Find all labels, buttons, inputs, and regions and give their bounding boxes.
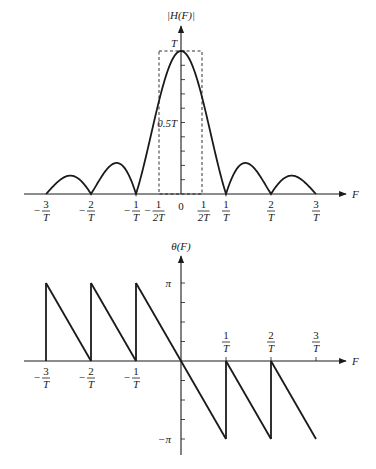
top-x-tick-label-numerator: 3 bbox=[313, 198, 319, 210]
bottom-x-tick-label: 1T bbox=[222, 329, 230, 354]
top-x-tick-label: 2T− bbox=[79, 198, 95, 223]
top-x-tick-label-denominator: T bbox=[313, 211, 320, 223]
top-x-tick-label-numerator: 2 bbox=[88, 198, 94, 210]
top-x-tick-label-denominator: 2T bbox=[153, 211, 166, 223]
top-x-tick-label-numerator: 1 bbox=[133, 198, 139, 210]
bottom-x-tick-label-numerator: 1 bbox=[133, 365, 139, 377]
magnitude-plot: |H(F)| F T0.5T 3T−2T−1T−12T−012T1T2T3T bbox=[24, 9, 359, 223]
top-x-tick-label: 12T bbox=[198, 198, 211, 223]
phase-plot: θ(F) F π−π 3T−2T−1T−1T2T3T bbox=[24, 240, 359, 455]
bottom-x-tick-label-minus: − bbox=[79, 371, 85, 383]
phase-segment bbox=[271, 361, 316, 439]
phase-segment bbox=[91, 283, 136, 361]
top-x-tick-label-minus: − bbox=[124, 204, 130, 216]
top-x-tick-label-denominator: T bbox=[88, 211, 95, 223]
phase-segment bbox=[226, 361, 271, 439]
top-x-tick-label-text: 0 bbox=[178, 200, 184, 212]
bottom-x-tick-label-minus: − bbox=[124, 371, 130, 383]
bottom-x-tick-label-denominator: T bbox=[88, 378, 95, 390]
top-x-tick-label-minus: − bbox=[144, 204, 150, 216]
top-x-tick-label-numerator: 3 bbox=[43, 198, 49, 210]
bottom-x-axis-label: F bbox=[351, 355, 359, 367]
figure: |H(F)| F T0.5T 3T−2T−1T−12T−012T1T2T3T θ… bbox=[0, 0, 376, 469]
top-x-tick-label-minus: − bbox=[34, 204, 40, 216]
top-x-tick-label-denominator: T bbox=[223, 211, 230, 223]
bottom-y-tick-label: π bbox=[165, 277, 171, 289]
top-x-tick-label: 0 bbox=[178, 200, 184, 212]
top-x-tick-label-numerator: 1 bbox=[201, 198, 207, 210]
top-x-axis-label: F bbox=[351, 188, 359, 200]
top-x-tick-label-minus: − bbox=[79, 204, 85, 216]
bottom-x-tick-label-denominator: T bbox=[268, 342, 275, 354]
top-x-tick-label: 3T− bbox=[34, 198, 50, 223]
bottom-y-tick-label: −π bbox=[158, 433, 171, 445]
bottom-x-tick-label: 3T bbox=[312, 329, 320, 354]
bottom-x-tick-label-numerator: 3 bbox=[313, 329, 319, 341]
bottom-x-tick-label: 3T− bbox=[34, 365, 50, 390]
bottom-x-tick-label-denominator: T bbox=[133, 378, 140, 390]
top-x-tick-label-denominator: T bbox=[43, 211, 50, 223]
top-x-tick-label-numerator: 1 bbox=[156, 198, 162, 210]
top-x-tick-label: 3T bbox=[312, 198, 320, 223]
top-x-tick-label-numerator: 2 bbox=[268, 198, 274, 210]
phase-segment bbox=[46, 283, 91, 361]
top-y-axis-label: |H(F)| bbox=[167, 9, 195, 22]
top-y-tick-label: T bbox=[171, 37, 178, 49]
bottom-x-tick-label-numerator: 2 bbox=[268, 329, 274, 341]
top-x-tick-label-denominator: T bbox=[268, 211, 275, 223]
top-x-tick-label: 1T− bbox=[124, 198, 140, 223]
bottom-x-tick-label: 1T− bbox=[124, 365, 140, 390]
top-y-tick-label: 0.5T bbox=[157, 117, 178, 129]
bottom-x-tick-label-denominator: T bbox=[313, 342, 320, 354]
bottom-x-tick-label: 2T− bbox=[79, 365, 95, 390]
top-x-tick-label-denominator: 2T bbox=[198, 211, 211, 223]
bottom-x-tick-label-minus: − bbox=[34, 371, 40, 383]
bottom-x-tick-label-denominator: T bbox=[223, 342, 230, 354]
top-x-tick-label: 12T− bbox=[144, 198, 165, 223]
bottom-x-tick-label-numerator: 1 bbox=[223, 329, 229, 341]
top-x-tick-label-numerator: 1 bbox=[223, 198, 229, 210]
bottom-x-tick-label-numerator: 2 bbox=[88, 365, 94, 377]
bottom-y-axis-label: θ(F) bbox=[171, 240, 191, 253]
top-x-tick-label: 2T bbox=[267, 198, 275, 223]
bottom-x-tick-label: 2T bbox=[267, 329, 275, 354]
top-x-tick-label: 1T bbox=[222, 198, 230, 223]
bottom-x-tick-label-denominator: T bbox=[43, 378, 50, 390]
bottom-x-tick-label-numerator: 3 bbox=[43, 365, 49, 377]
top-x-tick-label-denominator: T bbox=[133, 211, 140, 223]
